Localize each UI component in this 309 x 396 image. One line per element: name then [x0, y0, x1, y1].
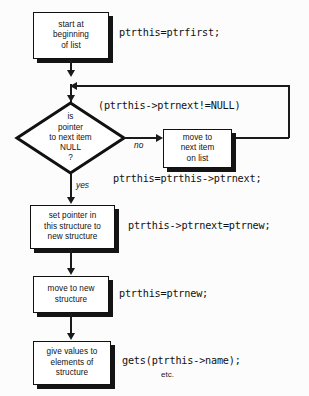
arrow-no-right	[156, 134, 163, 142]
node-move-new: move to new structure	[33, 276, 109, 313]
code-set-pointer: ptrthis->ptrnext=ptrnew;	[128, 220, 270, 231]
code-condition: (ptrthis->ptrnext!=NULL)	[98, 100, 240, 111]
code-move-next: ptrthis=ptrthis->ptrnext;	[113, 173, 261, 184]
arrow-movenew-down	[67, 268, 75, 275]
node-decision: is pointer to next item NULL ?	[14, 100, 127, 176]
branch-label-no: no	[134, 140, 143, 150]
node-start: start at beginning of list	[33, 12, 109, 59]
node-start-label: start at beginning of list	[50, 20, 92, 51]
node-give-values-label: give values to elements of structure	[44, 347, 101, 378]
arrow-yes-down	[67, 197, 75, 204]
code-start: ptrthis=ptrfirst;	[119, 27, 220, 38]
connector-loopback-vertical	[288, 85, 290, 138]
code-etc: etc.	[161, 370, 174, 379]
flowchart-canvas: start at beginning of list ptrthis=ptrfi…	[0, 0, 309, 396]
node-move-next-label: move to next item on list	[178, 133, 218, 164]
node-move-next: move to next item on list	[163, 129, 232, 168]
decision-diamond-shape	[14, 100, 127, 176]
connector-loopback-top	[70, 85, 289, 87]
node-set-pointer-label: set pointer in this structure to new str…	[41, 211, 104, 242]
code-give-values: gets(ptrthis->name);	[122, 355, 241, 366]
connector-movenext-to-loopback	[231, 137, 289, 139]
arrow-loopback-left	[70, 82, 77, 90]
connector-no-branch	[124, 137, 157, 139]
code-move-new: ptrthis=ptrnew;	[119, 288, 208, 299]
node-move-new-label: move to new structure	[45, 284, 98, 305]
arrow-givevalues-down	[67, 333, 75, 340]
node-set-pointer: set pointer in this structure to new str…	[30, 205, 115, 249]
arrow-start-down	[67, 70, 75, 77]
branch-label-yes: yes	[76, 180, 89, 190]
node-give-values: give values to elements of structure	[33, 341, 111, 385]
